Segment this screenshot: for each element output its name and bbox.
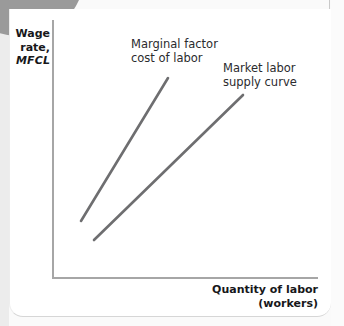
curve-market-labor-supply-curve [94,95,243,240]
curve-label-market-labor-supply: Market labor supply curve [223,62,297,89]
curve-label-marginal-factor-cost: Marginal factor cost of labor [131,38,218,65]
curve-label-supply-line2: supply curve [223,76,297,90]
plot-area: Wage rate, MFCL Marginal factor cost of … [0,0,344,326]
figure-root: Wage rate, MFCL Marginal factor cost of … [0,0,344,326]
curve-marginal-factor-cost-of-labor [81,78,168,221]
x-axis-label: Quantity of labor (workers) [170,283,318,310]
curve-label-supply-line1: Market labor [223,62,297,76]
x-axis-label-line2: (workers) [170,297,318,311]
curve-label-mfcl-line1: Marginal factor [131,38,218,52]
y-axis-label-line1: Wage [12,27,50,41]
y-axis-label-line2: rate, [12,41,50,55]
y-axis-symbol: MFCL [12,54,50,68]
y-axis-label: Wage rate, MFCL [12,27,50,68]
x-axis-label-line1: Quantity of labor [170,283,318,297]
curve-label-mfcl-line2: cost of labor [131,52,218,66]
